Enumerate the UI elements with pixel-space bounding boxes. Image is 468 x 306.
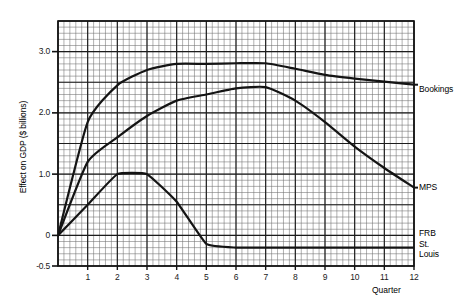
x-tick-label: 10 (345, 272, 365, 282)
series-label-mps: MPS (419, 182, 437, 192)
frb-line-2: St. (419, 239, 439, 250)
x-tick-label: 3 (137, 272, 157, 282)
x-tick-label: 12 (404, 272, 424, 282)
x-tick-label: 5 (196, 272, 216, 282)
y-tick-marks (52, 52, 58, 266)
line-chart-canvas (0, 0, 468, 306)
x-tick-label: 4 (167, 272, 187, 282)
x-tick-label: 6 (226, 272, 246, 282)
y-tick-label: 3.0 (24, 46, 50, 56)
series-label-bookings: Bookings (419, 84, 453, 94)
frb-line-1: FRB (419, 228, 439, 239)
y-tick-label: -0.5 (24, 261, 50, 271)
x-tick-label: 9 (315, 272, 335, 282)
x-tick-label: 2 (107, 272, 127, 282)
chart-figure: 3.0 2.0 1.0 0 -0.5 123456789101112 Effec… (0, 0, 468, 306)
x-tick-label: 11 (374, 272, 394, 282)
y-axis-title: Effect on GDP ($ billions) (18, 77, 28, 217)
x-tick-label: 8 (285, 272, 305, 282)
series-label-frb-st-louis: FRB St. Louis (419, 228, 439, 260)
x-axis-title: Quarter (372, 285, 401, 295)
y-tick-label: 0 (24, 230, 50, 240)
frb-line-3: Louis (419, 249, 439, 260)
x-tick-label: 1 (78, 272, 98, 282)
x-tick-label: 7 (256, 272, 276, 282)
